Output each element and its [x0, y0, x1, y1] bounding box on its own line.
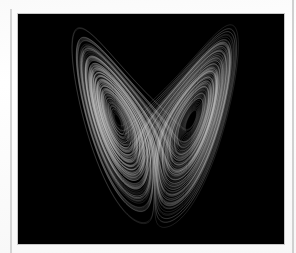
left-divider-rule [10, 9, 12, 253]
right-divider-rule [292, 0, 294, 253]
lorenz-attractor-plot [18, 14, 284, 244]
lorenz-attractor-image-frame [17, 13, 285, 245]
